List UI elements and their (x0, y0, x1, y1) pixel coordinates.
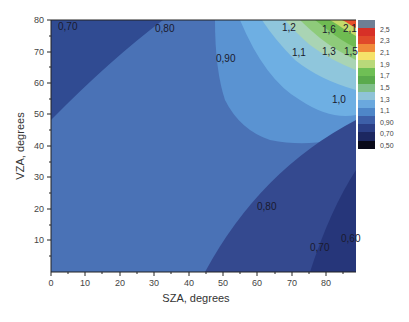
svg-text:80: 80 (34, 15, 44, 25)
contour-chart: 0 10 20 30 40 50 60 70 80 80 70 60 50 40… (0, 0, 409, 322)
svg-text:80: 80 (321, 278, 331, 288)
svg-text:10: 10 (34, 235, 44, 245)
svg-text:1,0: 1,0 (332, 94, 346, 105)
svg-text:70: 70 (287, 278, 297, 288)
svg-text:2,1: 2,1 (380, 49, 390, 56)
svg-text:1,5: 1,5 (380, 84, 390, 91)
svg-text:0,60: 0,60 (341, 233, 361, 244)
svg-text:0,50: 0,50 (380, 142, 394, 149)
svg-text:1,3: 1,3 (380, 96, 390, 103)
svg-text:2,1: 2,1 (343, 23, 357, 34)
svg-text:0,90: 0,90 (216, 53, 236, 64)
svg-text:1,3: 1,3 (322, 46, 336, 57)
svg-text:50: 50 (218, 278, 228, 288)
colorbar (358, 20, 375, 149)
svg-text:0,80: 0,80 (257, 201, 277, 212)
svg-text:40: 40 (34, 141, 44, 151)
x-axis-label: SZA, degrees (162, 292, 230, 304)
x-axis-ticks (51, 272, 343, 276)
svg-text:60: 60 (252, 278, 262, 288)
svg-text:2,5: 2,5 (380, 26, 390, 33)
y-tick-labels: 80 70 60 50 40 30 20 10 (34, 15, 44, 245)
svg-text:30: 30 (149, 278, 159, 288)
svg-text:2,3: 2,3 (380, 37, 390, 44)
svg-text:0,70: 0,70 (380, 130, 394, 137)
svg-text:20: 20 (115, 278, 125, 288)
svg-text:20: 20 (34, 204, 44, 214)
svg-text:1,9: 1,9 (380, 61, 390, 68)
y-axis-ticks (47, 20, 51, 256)
svg-text:0,80: 0,80 (155, 23, 175, 34)
svg-text:1,1: 1,1 (380, 107, 390, 114)
svg-text:1,1: 1,1 (292, 47, 306, 58)
svg-text:40: 40 (184, 278, 194, 288)
svg-text:10: 10 (80, 278, 90, 288)
svg-text:1,2: 1,2 (282, 22, 296, 33)
svg-text:30: 30 (34, 172, 44, 182)
svg-text:0,70: 0,70 (58, 21, 78, 32)
colorbar-tick-labels: 2,5 2,3 2,1 1,9 1,7 1,5 1,3 1,1 0,90 0,7… (380, 26, 394, 149)
y-axis-label: VZA, degrees (14, 112, 26, 180)
svg-text:70: 70 (34, 47, 44, 57)
svg-text:1,6: 1,6 (322, 24, 336, 35)
contour-plot-area (51, 20, 356, 272)
svg-text:50: 50 (34, 109, 44, 119)
svg-text:0: 0 (48, 278, 53, 288)
svg-text:1,5: 1,5 (344, 46, 358, 57)
x-tick-labels: 0 10 20 30 40 50 60 70 80 (48, 278, 331, 288)
svg-text:0,70: 0,70 (310, 242, 330, 253)
svg-text:1,7: 1,7 (380, 72, 390, 79)
svg-text:60: 60 (34, 78, 44, 88)
svg-text:0,90: 0,90 (380, 119, 394, 126)
